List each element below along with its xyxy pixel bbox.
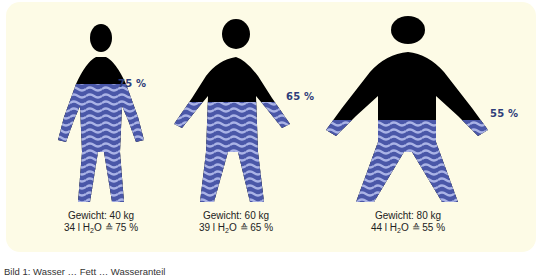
water-volume-label: 34 l H2O ≙ 75 % <box>46 222 156 237</box>
head-icon <box>391 16 425 44</box>
water-percent-label: 55 % <box>490 108 518 119</box>
weight-label: Gewicht: 60 kg <box>181 210 291 222</box>
diagram-panel: 75 % 65 % 55 % Gewicht: 40 kg 34 l H2O ≙… <box>6 2 536 252</box>
head-icon <box>222 19 250 49</box>
person-figure-60kg <box>166 19 296 212</box>
figure-caption-60kg: Gewicht: 60 kg 39 l H2O ≙ 65 % <box>181 210 291 237</box>
figure-caption-40kg: Gewicht: 40 kg 34 l H2O ≙ 75 % <box>46 210 156 237</box>
person-figure-80kg <box>316 16 496 212</box>
figure-caption: Bild 1: Wasser … Fett … Wasseranteil <box>4 266 165 277</box>
weight-label: Gewicht: 40 kg <box>46 210 156 222</box>
person-figure-40kg <box>46 24 156 214</box>
weight-label: Gewicht: 80 kg <box>353 210 463 222</box>
water-percent-label: 65 % <box>286 91 314 102</box>
head-icon <box>90 24 112 52</box>
figure-caption-80kg: Gewicht: 80 kg 44 l H2O ≙ 55 % <box>353 210 463 237</box>
water-volume-label: 44 l H2O ≙ 55 % <box>353 222 463 237</box>
water-percent-label: 75 % <box>118 78 146 89</box>
water-volume-label: 39 l H2O ≙ 65 % <box>181 222 291 237</box>
